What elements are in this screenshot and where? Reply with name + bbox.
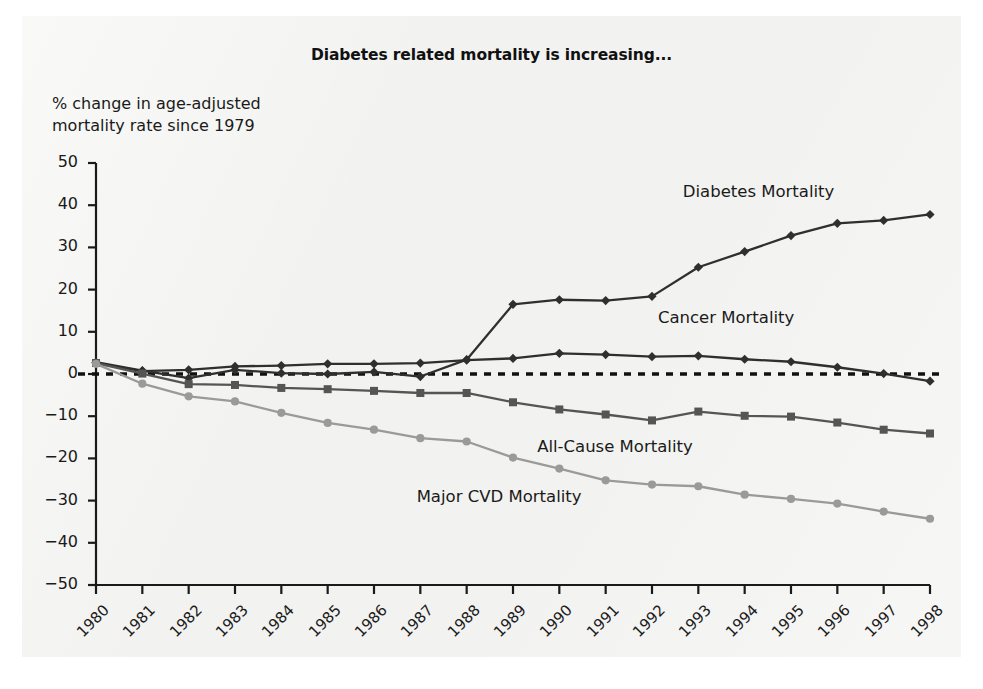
series-marker	[694, 482, 702, 490]
series-marker	[370, 426, 378, 434]
series-marker	[880, 426, 888, 434]
series-marker	[463, 389, 471, 397]
series-marker	[277, 361, 286, 370]
y-tick-label: 30	[36, 236, 78, 255]
series-label-diabetes-mortality: Diabetes Mortality	[683, 182, 835, 201]
series-marker	[694, 408, 702, 416]
series-marker	[369, 359, 378, 368]
series-marker	[555, 464, 563, 472]
series-marker	[786, 357, 795, 366]
series-label-cancer-mortality: Cancer Mortality	[658, 308, 794, 327]
series-marker	[185, 392, 193, 400]
series-marker	[926, 515, 934, 523]
series-marker	[833, 419, 841, 427]
series-marker	[740, 355, 749, 364]
series-marker	[925, 377, 934, 386]
series-marker	[231, 381, 239, 389]
y-tick-label: −50	[36, 574, 78, 593]
series-marker	[555, 295, 564, 304]
series-marker	[602, 411, 610, 419]
series-marker	[416, 389, 424, 397]
series-marker	[741, 412, 749, 420]
series-marker	[324, 385, 332, 393]
series-marker	[416, 358, 425, 367]
chart-svg	[0, 0, 983, 689]
series-marker	[601, 296, 610, 305]
y-tick-label: −10	[36, 405, 78, 424]
series-marker	[926, 430, 934, 438]
series-marker	[509, 453, 517, 461]
series-marker	[185, 380, 193, 388]
series-marker	[138, 370, 146, 378]
series-marker	[602, 476, 610, 484]
y-tick-label: 10	[36, 321, 78, 340]
y-tick-label: −30	[36, 490, 78, 509]
y-tick-label: 40	[36, 194, 78, 213]
series-label-major-cvd-mortality: Major CVD Mortality	[417, 487, 582, 506]
y-tick-label: −20	[36, 447, 78, 466]
series-marker	[508, 354, 517, 363]
series-label-all-cause-mortality: All-Cause Mortality	[537, 437, 693, 456]
series-marker	[138, 380, 146, 388]
series-marker	[323, 369, 332, 378]
series-marker	[92, 360, 100, 368]
series-marker	[741, 491, 749, 499]
series-marker	[509, 398, 517, 406]
series-marker	[370, 387, 378, 395]
plot-area: 50403020100−10−20−30−40−5019801981198219…	[0, 0, 983, 689]
chart-page: Diabetes related mortality is increasing…	[0, 0, 983, 689]
series-marker	[324, 419, 332, 427]
series-marker	[833, 499, 841, 507]
series-marker	[648, 480, 656, 488]
series-marker	[694, 351, 703, 360]
series-marker	[647, 352, 656, 361]
y-tick-label: 20	[36, 279, 78, 298]
series-marker	[787, 413, 795, 421]
series-marker	[786, 231, 795, 240]
y-tick-label: 50	[36, 152, 78, 171]
series-marker	[833, 363, 842, 372]
y-tick-label: 0	[36, 363, 78, 382]
series-marker	[833, 219, 842, 228]
series-marker	[879, 369, 888, 378]
series-marker	[555, 349, 564, 358]
series-marker	[601, 350, 610, 359]
series-marker	[231, 397, 239, 405]
series-marker	[277, 384, 285, 392]
series-marker	[555, 405, 563, 413]
series-marker	[880, 507, 888, 515]
series-line	[96, 214, 930, 378]
series-marker	[787, 495, 795, 503]
y-tick-label: −40	[36, 532, 78, 551]
series-marker	[416, 434, 424, 442]
series-marker	[323, 359, 332, 368]
series-marker	[740, 247, 749, 256]
series-marker	[925, 210, 934, 219]
series-marker	[879, 216, 888, 225]
series-marker	[463, 437, 471, 445]
series-marker	[648, 416, 656, 424]
series-marker	[277, 409, 285, 417]
